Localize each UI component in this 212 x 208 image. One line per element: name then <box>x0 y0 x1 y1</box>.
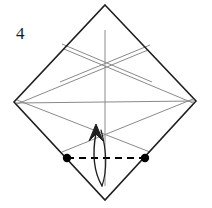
crease-lines-group <box>16 30 194 186</box>
origami-figure-svg <box>0 0 212 208</box>
left-reference-point <box>63 154 71 162</box>
origami-diagram: 4 <box>0 0 212 208</box>
right-reference-point <box>141 154 149 162</box>
step-number-label: 4 <box>16 24 25 43</box>
fold-arrow-shaft <box>94 133 102 186</box>
right-vertex-to-upper-left-crease <box>64 49 193 103</box>
